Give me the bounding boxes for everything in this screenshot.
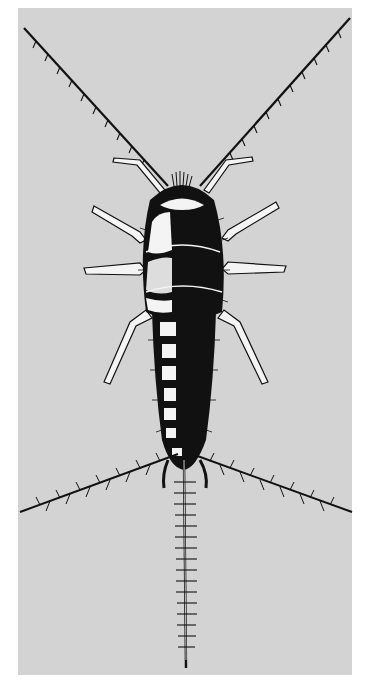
antennae xyxy=(24,18,350,186)
abdomen xyxy=(152,312,216,470)
terminal-filament xyxy=(174,460,197,668)
head-bristles xyxy=(172,171,192,187)
thorax xyxy=(143,185,224,321)
silverfish-illustration xyxy=(0,0,370,690)
